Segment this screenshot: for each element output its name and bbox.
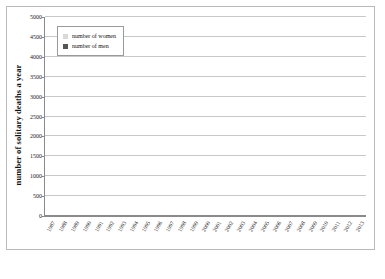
legend-swatch-men [63, 44, 68, 49]
bar-group: 2005 [259, 17, 271, 216]
y-axis-tick-label: 1000 [30, 173, 42, 179]
bar-group: 1997 [164, 17, 176, 216]
chart-figure: number of solitary deaths a year 0500100… [0, 0, 385, 279]
bar-group: 2013 [354, 17, 366, 216]
bar-group: 2004 [247, 17, 259, 216]
bar-group: 1996 [152, 17, 164, 216]
legend-label: number of women [72, 33, 116, 39]
y-axis-tick-label: 3000 [30, 94, 42, 100]
y-axis-tick-label: 2000 [30, 133, 42, 139]
bar-group: 2008 [295, 17, 307, 216]
y-axis-tick-label: 2500 [30, 114, 42, 120]
legend-item: number of women [63, 31, 116, 41]
bar-group: 2003 [235, 17, 247, 216]
y-axis-tick-label: 3500 [30, 74, 42, 80]
bar-group: 1995 [140, 17, 152, 216]
y-axis-tick-mark [42, 216, 45, 217]
bar-group: 1987 [45, 17, 57, 216]
bar-group: 2007 [283, 17, 295, 216]
legend-item: number of men [63, 41, 116, 51]
y-axis-tick-label: 5000 [30, 14, 42, 20]
bar-group: 1998 [176, 17, 188, 216]
chart-legend: number of womennumber of men [57, 26, 124, 56]
bar-group: 2000 [200, 17, 212, 216]
bar-group: 1999 [188, 17, 200, 216]
bar-group: 2009 [307, 17, 319, 216]
bar-group: 2010 [318, 17, 330, 216]
bar-group: 1994 [128, 17, 140, 216]
y-axis-tick-label: 4500 [30, 34, 42, 40]
bar-group: 2011 [330, 17, 342, 216]
y-axis-tick-label: 4000 [30, 54, 42, 60]
bar-group: 2006 [271, 17, 283, 216]
bar-group: 2002 [223, 17, 235, 216]
legend-swatch-women [63, 34, 68, 39]
bar-group: 2012 [342, 17, 354, 216]
y-axis-tick-label: 0 [39, 213, 42, 219]
y-axis-tick-label: 1500 [30, 153, 42, 159]
bar-group: 2001 [211, 17, 223, 216]
legend-label: number of men [72, 43, 109, 49]
y-axis-tick-label: 500 [33, 193, 42, 199]
y-axis-title: number of solitary deaths a year [13, 30, 23, 220]
